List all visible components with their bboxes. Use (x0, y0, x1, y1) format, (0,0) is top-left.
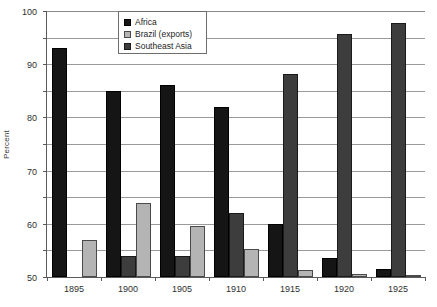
x-axis-separator (101, 277, 102, 281)
bar-chart: Percent 0102030405060708090100 189519001… (0, 0, 437, 307)
bar (160, 85, 175, 277)
x-axis-tick-label: 1925 (371, 284, 425, 294)
bar (106, 91, 121, 277)
bar (190, 226, 205, 277)
bar (391, 23, 406, 277)
x-axis-separator (209, 277, 210, 281)
x-axis-tick-label: 1905 (155, 284, 209, 294)
legend-swatch-icon (124, 43, 131, 50)
bar (352, 274, 367, 277)
y-axis-tick-label: 60 (27, 220, 37, 230)
x-axis-separator (371, 277, 372, 281)
y-axis-tick-label: 80 (27, 113, 37, 123)
bar (136, 203, 151, 277)
plot-area: 0102030405060708090100 18951900190519101… (46, 11, 425, 278)
bar (406, 275, 421, 277)
bar (244, 249, 259, 277)
x-axis-separator (425, 277, 426, 281)
chart-legend: AfricaBrazil (exports)Southeast Asia (118, 11, 207, 54)
bar (82, 240, 97, 277)
x-axis-tick-label: 1920 (317, 284, 371, 294)
y-axis-tick-label: 70 (27, 167, 37, 177)
x-axis-separator (263, 277, 264, 281)
x-axis-tick-label: 1895 (47, 284, 101, 294)
bar-group: 1910 (209, 11, 263, 277)
bar (52, 48, 67, 277)
bar-group: 1915 (263, 11, 317, 277)
x-axis-tick-label: 1900 (101, 284, 155, 294)
legend-item-label: Brazil (exports) (135, 29, 192, 40)
y-axis-tick-label: 90 (27, 60, 37, 70)
y-axis-title: Percent (0, 113, 14, 177)
y-axis-tick-label: 100 (22, 7, 37, 17)
bar-group: 1925 (371, 11, 425, 277)
x-axis-separator (47, 277, 48, 281)
bar-group: 1920 (317, 11, 371, 277)
x-axis-tick-label: 1915 (263, 284, 317, 294)
legend-item: Africa (124, 16, 201, 28)
bar (283, 74, 298, 277)
bar (268, 224, 283, 277)
y-axis-tick-label: 50 (27, 273, 37, 283)
legend-item-label: Africa (135, 17, 157, 28)
bar (376, 269, 391, 277)
bar (298, 270, 313, 277)
bar (229, 213, 244, 277)
bar-group: 1895 (47, 11, 101, 277)
bar (214, 107, 229, 277)
bar (322, 258, 337, 277)
bar (175, 256, 190, 277)
x-axis-tick-label: 1910 (209, 284, 263, 294)
legend-swatch-icon (124, 31, 131, 38)
x-axis-separator (155, 277, 156, 281)
legend-item: Brazil (exports) (124, 28, 201, 40)
legend-item: Southeast Asia (124, 40, 201, 52)
legend-item-label: Southeast Asia (135, 41, 192, 52)
x-axis-separator (317, 277, 318, 281)
bar (337, 34, 352, 277)
legend-swatch-icon (124, 19, 131, 26)
bar (121, 256, 136, 277)
